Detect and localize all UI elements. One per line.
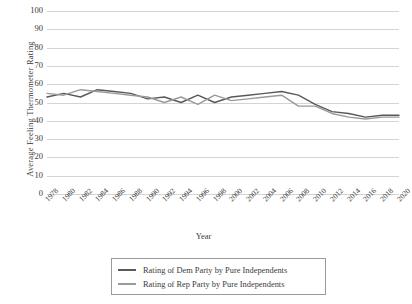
- y-axis-tick-label: 70: [35, 60, 44, 70]
- y-axis-tick-label: 50: [35, 97, 44, 107]
- y-axis-tick-label: 10: [35, 170, 44, 180]
- legend-label-dem: Rating of Dem Party by Pure Independents: [143, 266, 287, 275]
- y-axis-tick-label: 30: [35, 133, 44, 143]
- legend-swatch-rep: [118, 283, 136, 285]
- series-line-rep: [47, 90, 399, 119]
- plot-area: 1009080706050403020100: [47, 11, 399, 194]
- y-axis-tick-label: 90: [35, 23, 44, 33]
- x-axis-title: Year: [0, 231, 407, 241]
- legend-item-rep: Rating of Rep Party by Pure Independents: [118, 277, 319, 291]
- y-axis-title: Average Feeling Thermometer Rating: [25, 19, 35, 199]
- chart-legend: Rating of Dem Party by Pure Independents…: [111, 258, 326, 295]
- legend-item-dem: Rating of Dem Party by Pure Independents: [118, 263, 319, 277]
- series-line-dem: [47, 90, 399, 117]
- y-axis-tick-label: 20: [35, 151, 44, 161]
- y-axis-tick-label: 40: [35, 115, 44, 125]
- data-series-layer: [47, 11, 399, 194]
- legend-label-rep: Rating of Rep Party by Pure Independents: [143, 280, 284, 289]
- y-axis-tick-label: 80: [35, 42, 44, 52]
- y-axis-tick-label: 100: [30, 5, 43, 15]
- y-axis-tick-label: 60: [35, 78, 44, 88]
- legend-swatch-dem: [118, 269, 136, 271]
